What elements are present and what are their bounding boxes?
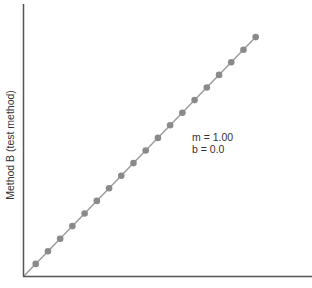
- intercept-label: b = 0.0: [192, 143, 233, 155]
- data-point: [191, 97, 198, 104]
- data-point: [118, 172, 125, 179]
- data-point: [57, 235, 64, 242]
- data-point: [204, 84, 211, 91]
- slope-label: m = 1.00: [192, 131, 233, 143]
- data-point: [94, 198, 101, 205]
- data-point: [32, 261, 39, 268]
- data-point: [240, 46, 247, 53]
- data-point: [142, 147, 149, 154]
- data-point: [130, 160, 137, 167]
- data-point: [228, 59, 235, 66]
- data-point: [155, 135, 162, 142]
- data-point: [216, 72, 223, 79]
- data-point: [167, 122, 174, 129]
- data-point: [106, 185, 113, 192]
- data-point: [179, 109, 186, 116]
- plot-area: [24, 34, 259, 277]
- data-point: [81, 210, 88, 217]
- data-point: [252, 34, 259, 41]
- data-point: [45, 248, 52, 255]
- regression-annotation: m = 1.00 b = 0.0: [192, 131, 233, 155]
- scatter-plot: [0, 0, 312, 288]
- data-point: [69, 223, 76, 230]
- y-axis-label-text: Method B (test method): [4, 90, 16, 200]
